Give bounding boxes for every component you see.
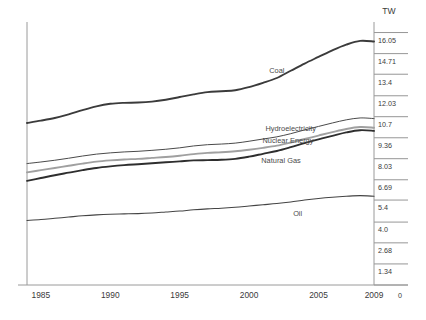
- series-label-hydroelectricity: Hydroelectricity: [265, 124, 316, 133]
- series-curve-oil: [27, 196, 374, 221]
- x-axis-tick-group: 198519901995200020052009: [32, 290, 384, 300]
- series-label-oil: Oil: [293, 209, 302, 218]
- y-axis-unit-label: TW: [382, 6, 396, 16]
- y-axis-tick-label: 0: [398, 291, 402, 300]
- y-axis-tick-label: 4.0: [378, 225, 388, 234]
- y-axis-tick-label: 8.03: [378, 162, 392, 171]
- y-axis-tick-group: 16.0514.7113.412.0310.79.368.036.695.44.…: [374, 33, 408, 300]
- series-curve-nuclear-energy: [27, 127, 374, 172]
- x-axis-tick-label: 1985: [32, 290, 51, 300]
- y-axis-tick-label: 2.68: [378, 246, 392, 255]
- x-axis-tick-label: 2005: [309, 290, 328, 300]
- series-label-natural-gas: Natural Gas: [261, 156, 301, 165]
- y-axis-tick-label: 1.34: [378, 267, 392, 276]
- y-axis-tick-label: 6.69: [378, 183, 392, 192]
- series-label-coal: Coal: [269, 66, 285, 75]
- y-axis-tick-label: 16.05: [378, 36, 396, 45]
- x-axis-tick-label: 1990: [101, 290, 120, 300]
- y-axis-tick-label: 13.4: [378, 78, 392, 87]
- y-axis-tick-label: 10.7: [378, 120, 392, 129]
- series-curves-group: [27, 41, 374, 221]
- chart-canvas: TW 16.0514.7113.412.0310.79.368.036.695.…: [0, 0, 426, 320]
- energy-consumption-chart: TW 16.0514.7113.412.0310.79.368.036.695.…: [0, 0, 426, 320]
- x-axis-tick-label: 2000: [240, 290, 259, 300]
- series-curve-hydroelectricity: [27, 118, 374, 164]
- y-axis-tick-label: 9.36: [378, 141, 392, 150]
- x-axis-tick-label: 2009: [365, 290, 384, 300]
- series-curve-natural-gas: [27, 130, 374, 181]
- x-axis-tick-label: 1995: [170, 290, 189, 300]
- y-axis-tick-label: 14.71: [378, 57, 396, 66]
- series-label-nuclear-energy: Nuclear Energy: [262, 136, 313, 145]
- series-annotations-group: CoalHydroelectricityNuclear EnergyNatura…: [261, 66, 316, 217]
- y-axis-tick-label: 5.4: [378, 203, 388, 212]
- y-axis-tick-label: 12.03: [378, 99, 396, 108]
- series-curve-coal: [27, 41, 374, 123]
